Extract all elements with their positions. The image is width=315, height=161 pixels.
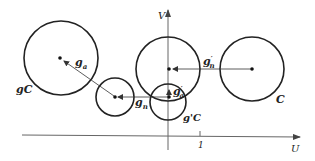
diagram-canvas: V U 1 gC C g'C ga gn g′n g′a <box>0 0 315 161</box>
label-gprimeC: g'C <box>183 112 201 123</box>
label-gprime-a: g′a <box>173 84 185 100</box>
tick-one-label: 1 <box>198 140 204 150</box>
label-g-n: gn <box>135 96 148 111</box>
label-gC: gC <box>16 83 33 96</box>
u-axis <box>22 135 300 137</box>
label-gprime-n: g′n <box>203 54 215 70</box>
label-C: C <box>276 93 285 106</box>
center-middle <box>167 67 171 71</box>
label-g-a: ga <box>75 56 88 71</box>
vector-g-a <box>64 61 114 96</box>
v-axis-label: V <box>158 10 167 21</box>
center-gC <box>58 56 62 60</box>
u-axis-label: U <box>291 143 300 154</box>
